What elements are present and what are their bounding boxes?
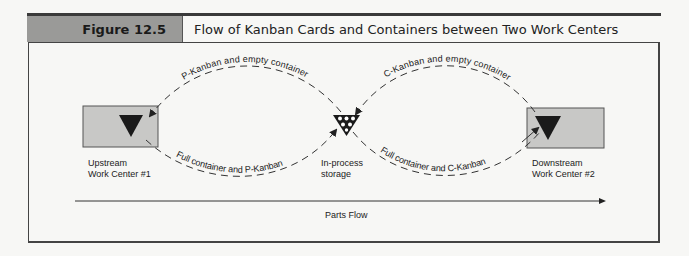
svg-text:Full container and C-Kanban: Full container and C-Kanban <box>379 145 487 173</box>
upstream-label-line2: Work Center #1 <box>88 169 151 179</box>
downstream-label-line1: Downstream <box>532 158 583 168</box>
p-kanban-return-label: P-Kanban and empty container <box>180 54 310 82</box>
storage-label-line2: storage <box>321 169 351 179</box>
downstream-label-line2: Work Center #2 <box>532 169 595 179</box>
arrowhead-icon <box>599 198 606 204</box>
svg-text:C-Kanban and empty container: C-Kanban and empty container <box>382 53 513 82</box>
kanban-flow-diagram: P-Kanban and empty container Full contai… <box>0 0 689 256</box>
parts-flow-label: Parts Flow <box>325 210 368 220</box>
downstream-work-center <box>527 108 604 148</box>
storage-label-line1: In-process <box>321 158 364 168</box>
p-kanban-return-arc <box>150 66 341 116</box>
in-process-storage <box>333 115 360 136</box>
c-kanban-forward-label: Full container and C-Kanban <box>379 145 487 173</box>
upstream-label-line1: Upstream <box>88 158 127 168</box>
c-kanban-return-label: C-Kanban and empty container <box>382 53 513 82</box>
p-kanban-forward-label: Full container and P-Kanban <box>175 149 284 174</box>
svg-text:P-Kanban and empty container: P-Kanban and empty container <box>180 54 310 82</box>
svg-text:Full container and P-Kanban: Full container and P-Kanban <box>175 149 284 174</box>
